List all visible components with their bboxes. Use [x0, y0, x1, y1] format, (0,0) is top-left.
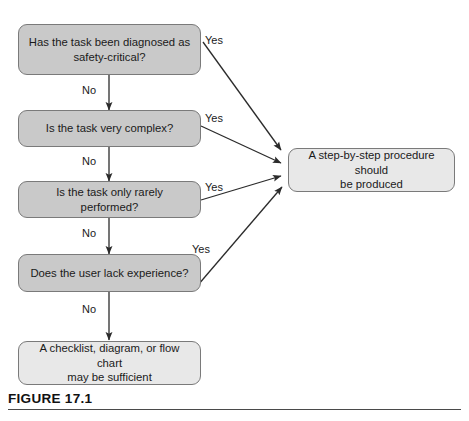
- decision-node-rarely-performed[interactable]: Is the task only rarely performed?: [18, 181, 201, 218]
- outcome-node-step-by-step-procedure-text: A step-by-step procedure should be produ…: [297, 148, 446, 191]
- edge-label-no-3: No: [82, 227, 96, 239]
- edge-label-no-2: No: [82, 155, 96, 167]
- outcome-node-checklist-diagram[interactable]: A checklist, diagram, or flow chart may …: [18, 341, 201, 385]
- decision-node-lack-experience[interactable]: Does the user lack experience?: [18, 254, 201, 292]
- edge-label-no-4: No: [82, 303, 96, 315]
- edge-label-no-1: No: [82, 84, 96, 96]
- edge-label-yes-3: Yes: [205, 181, 223, 193]
- edge-label-yes-1: Yes: [205, 34, 223, 46]
- outcome-node-checklist-diagram-line2: may be sufficient: [67, 371, 152, 383]
- outcome-node-checklist-diagram-text: A checklist, diagram, or flow chart may …: [27, 341, 192, 384]
- edge-d4-o1: [198, 187, 282, 285]
- outcome-node-step-by-step-procedure[interactable]: A step-by-step procedure should be produ…: [288, 148, 455, 192]
- edge-label-yes-2: Yes: [205, 112, 223, 124]
- decision-node-very-complex[interactable]: Is the task very complex?: [18, 110, 201, 147]
- decision-node-lack-experience-text: Does the user lack experience?: [27, 266, 192, 280]
- edge-d2-o1: [201, 126, 281, 163]
- decision-node-safety-critical-line2: safety-critical?: [73, 51, 145, 63]
- figure-caption-rule: [8, 409, 461, 410]
- outcome-node-checklist-diagram-line1: A checklist, diagram, or flow chart: [39, 342, 179, 368]
- decision-node-safety-critical-line1: Has the task been diagnosed as: [29, 36, 190, 48]
- figure-caption-block: FIGURE 17.1: [8, 391, 461, 410]
- decision-node-very-complex-text: Is the task very complex?: [27, 121, 192, 135]
- decision-node-rarely-performed-text: Is the task only rarely performed?: [27, 185, 192, 214]
- outcome-node-step-by-step-procedure-line2: be produced: [340, 178, 403, 190]
- decision-node-safety-critical-text: Has the task been diagnosed as safety-cr…: [27, 35, 192, 64]
- edge-label-yes-4: Yes: [192, 243, 210, 255]
- outcome-node-step-by-step-procedure-line1: A step-by-step procedure should: [308, 149, 434, 175]
- figure-page: Has the task been diagnosed as safety-cr…: [0, 0, 469, 421]
- decision-node-safety-critical[interactable]: Has the task been diagnosed as safety-cr…: [18, 24, 201, 75]
- figure-caption-label: FIGURE 17.1: [8, 391, 461, 409]
- edge-d1-o1: [203, 42, 281, 150]
